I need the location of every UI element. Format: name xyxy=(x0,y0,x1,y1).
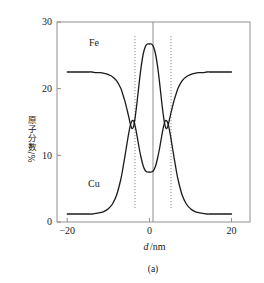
series-annotations: FeCu xyxy=(88,37,100,189)
y-tick-label: 30 xyxy=(42,16,52,27)
x-axis-title: d /nm xyxy=(144,241,166,252)
y-axis-tick-labels: 0102030 xyxy=(42,16,52,227)
series-line-cu xyxy=(67,120,231,214)
y-tick-label: 0 xyxy=(47,216,52,227)
y-axis-title-text: 原子分数/% xyxy=(26,116,36,163)
guide-lines xyxy=(135,22,171,222)
y-axis-title: x 原子分数/% xyxy=(26,116,36,163)
figure-panel: 0102030 −20020 FeCu x 原子分数/% d /nm (a) xyxy=(0,0,264,283)
y-axis-ticks xyxy=(57,22,61,222)
x-axis-title-symbol: d xyxy=(144,241,150,252)
x-axis-ticks xyxy=(67,218,231,222)
figure-caption: (a) xyxy=(148,264,159,275)
series-annotation: Fe xyxy=(89,37,100,48)
series-annotation: Cu xyxy=(88,178,100,189)
x-tick-label: −20 xyxy=(59,225,75,236)
x-tick-label: 20 xyxy=(227,225,237,236)
x-axis-title-unit: /nm xyxy=(150,241,166,252)
y-tick-label: 20 xyxy=(42,83,52,94)
y-tick-label: 10 xyxy=(42,150,52,161)
x-tick-label: 0 xyxy=(147,225,152,236)
x-axis-tick-labels: −20020 xyxy=(59,225,236,236)
chart-canvas: 0102030 −20020 FeCu x 原子分数/% d /nm (a) xyxy=(0,0,264,283)
series-line-fe xyxy=(67,44,231,129)
